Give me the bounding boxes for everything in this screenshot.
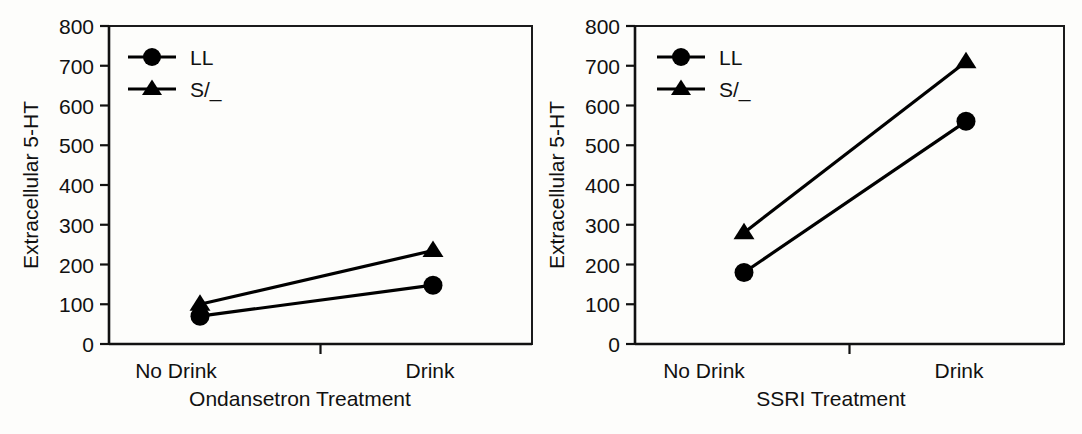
y-tick-label-400: 400 (59, 174, 94, 197)
legend: LL S/_ (657, 46, 751, 102)
chart-svg-ondansetron: 800 700 600 500 400 300 200 100 0 Extrac… (0, 0, 541, 434)
y-tick-label-600: 600 (585, 95, 620, 118)
series-line-ll (200, 285, 433, 316)
data-point-s-slash-drink (423, 241, 444, 258)
series-line-s-slash (744, 62, 966, 233)
y-axis-ticks (100, 26, 109, 344)
chart-panel-ondansetron: 800 700 600 500 400 300 200 100 0 Extrac… (0, 0, 541, 434)
x-category-label-no-drink: No Drink (663, 359, 745, 382)
series-line-ll (744, 121, 966, 272)
y-tick-label-600: 600 (59, 95, 94, 118)
legend-marker-circle-icon (672, 48, 690, 66)
y-tick-label-500: 500 (59, 134, 94, 157)
y-tick-label-800: 800 (585, 15, 620, 38)
legend-label-s-slash: S/_ (190, 78, 222, 102)
data-point-ll-no-drink (191, 307, 210, 326)
y-tick-label-400: 400 (585, 174, 620, 197)
legend-label-ll: LL (719, 46, 742, 69)
y-axis-title: Extracellular 5-HT (19, 101, 42, 269)
chart-panel-ssri: 800 700 600 500 400 300 200 100 0 Extrac… (541, 0, 1082, 434)
y-tick-label-0: 0 (82, 333, 94, 356)
chart-svg-ssri: 800 700 600 500 400 300 200 100 0 Extrac… (541, 0, 1082, 434)
y-tick-label-500: 500 (585, 134, 620, 157)
y-tick-label-300: 300 (585, 214, 620, 237)
y-tick-label-800: 800 (59, 15, 94, 38)
legend: LL S/_ (128, 46, 222, 102)
y-tick-label-300: 300 (59, 214, 94, 237)
series-line-s-slash (200, 251, 433, 305)
legend-label-ll: LL (190, 46, 213, 69)
y-axis-ticks (626, 26, 635, 344)
data-point-s-slash-drink (956, 52, 977, 69)
x-axis-title: SSRI Treatment (756, 387, 906, 410)
y-axis-title: Extracellular 5-HT (545, 101, 568, 269)
x-category-label-drink: Drink (405, 359, 455, 382)
legend-marker-circle-icon (143, 48, 161, 66)
data-point-ll-drink (424, 276, 443, 295)
y-tick-label-200: 200 (59, 254, 94, 277)
figure-two-panel-line-charts: 800 700 600 500 400 300 200 100 0 Extrac… (0, 0, 1082, 434)
legend-label-s-slash: S/_ (719, 78, 751, 102)
legend-marker-triangle-icon (142, 80, 162, 96)
y-tick-label-700: 700 (585, 55, 620, 78)
data-point-ll-drink (957, 112, 976, 131)
plot-frame (109, 26, 532, 344)
plot-frame (635, 26, 1064, 344)
x-category-label-drink: Drink (934, 359, 984, 382)
y-tick-label-100: 100 (585, 293, 620, 316)
y-tick-label-0: 0 (608, 333, 620, 356)
x-axis-title: Ondansetron Treatment (189, 387, 411, 410)
x-category-label-no-drink: No Drink (135, 359, 217, 382)
y-tick-label-200: 200 (585, 254, 620, 277)
y-tick-label-100: 100 (59, 293, 94, 316)
data-point-ll-no-drink (735, 263, 754, 282)
y-tick-label-700: 700 (59, 55, 94, 78)
legend-marker-triangle-icon (671, 80, 691, 96)
